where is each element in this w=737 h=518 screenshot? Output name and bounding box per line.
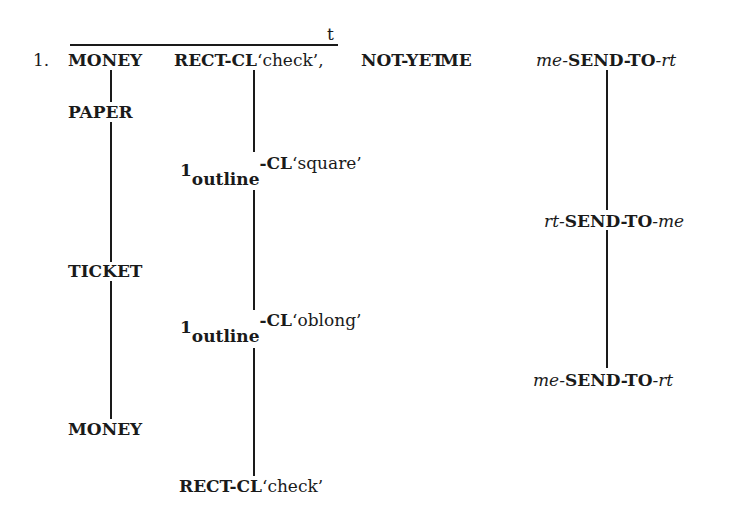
classifier-gloss: ‘square’ (292, 153, 362, 173)
sign-me: ME (440, 50, 472, 70)
send-verb: SEND-TO (568, 50, 656, 70)
send-suffix: -rt (655, 50, 676, 70)
rect-cl-gloss: ‘check’ (262, 476, 323, 496)
col2-connector-1 (253, 70, 255, 152)
col1-connector-2 (110, 122, 112, 262)
rect-cl-gloss: ‘check’, (257, 50, 324, 70)
send-prefix: rt- (544, 211, 565, 231)
topic-marker: t (327, 24, 334, 44)
col3-connector-1 (606, 70, 608, 210)
sign-1outline-cl-oblong: 1outline-CL‘oblong’ (180, 317, 361, 337)
sign-paper: PAPER (68, 102, 133, 122)
example-number: 1. (33, 50, 49, 70)
send-prefix: me- (536, 50, 568, 70)
sign-me-send-to-rt-2: me-SEND-TO-rt (533, 370, 673, 390)
sign-rt-send-to-me: rt-SEND-TO-me (544, 211, 684, 231)
handshape-subscript: outline (192, 326, 260, 346)
sign-send-to-1: me-SEND-TO-rt (536, 50, 676, 70)
sign-rect-cl-2: RECT-CL‘check’ (179, 476, 323, 496)
topic-bar (70, 44, 338, 46)
rect-cl-sign: RECT-CL (174, 50, 257, 70)
send-verb: SEND-TO (565, 370, 653, 390)
handshape-number: 1 (180, 160, 192, 180)
classifier: -CL (260, 153, 293, 173)
sign-ticket: TICKET (68, 261, 143, 281)
classifier: -CL (260, 310, 293, 330)
col2-connector-3 (253, 348, 255, 476)
rect-cl-sign: RECT-CL (179, 476, 262, 496)
sign-1outline-cl-square: 1outline-CL‘square’ (180, 160, 362, 180)
col2-connector-2 (253, 190, 255, 310)
send-verb: SEND-TO (565, 211, 653, 231)
send-prefix: me- (533, 370, 565, 390)
sign-rect-cl-1: RECT-CL‘check’, (174, 50, 324, 70)
sign-money-1: MONEY (68, 50, 142, 70)
classifier-gloss: ‘oblong’ (292, 310, 361, 330)
col1-connector-3 (110, 281, 112, 419)
handshape-number: 1 (180, 317, 192, 337)
send-suffix: -me (652, 211, 684, 231)
send-suffix: -rt (652, 370, 673, 390)
col1-connector-1 (110, 70, 112, 102)
sign-not-yet: NOT-YET (361, 50, 444, 70)
sign-money-2: MONEY (68, 419, 142, 439)
col3-connector-2 (606, 230, 608, 368)
handshape-subscript: outline (192, 169, 260, 189)
